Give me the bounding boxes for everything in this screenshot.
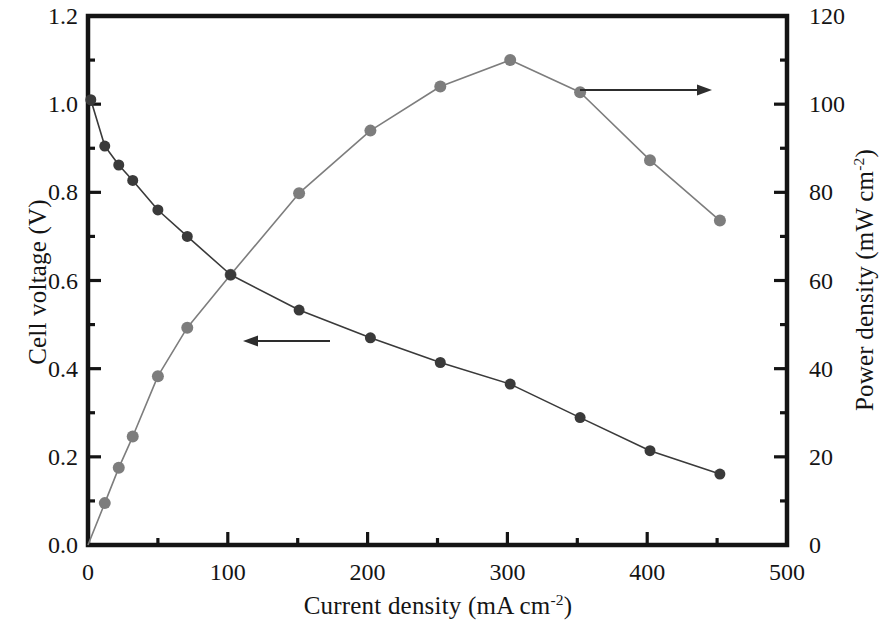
bottom-axis-title-text: Current density (mA cm [304, 592, 551, 619]
right-axis-title-tail: ) [851, 149, 878, 158]
bottom-axis-title-exponent: -2 [550, 591, 563, 608]
plot-frame-rect [88, 16, 787, 545]
cell-voltage-marker [505, 379, 516, 390]
left-axis-tick-label: 0.6 [10, 267, 78, 294]
right-axis-tick-label: 40 [809, 355, 833, 382]
right-axis-arrow-head [697, 85, 712, 96]
cell-voltage-marker [113, 160, 124, 171]
cell-voltage-marker [225, 269, 236, 280]
right-axis-title-text: Power density (mW cm [851, 171, 878, 411]
left-axis-arrow-head [243, 336, 258, 347]
power-density-marker [574, 86, 586, 98]
right-axis-tick-label: 100 [809, 91, 845, 118]
cell-voltage-marker [127, 175, 138, 186]
power-density-marker [113, 462, 125, 474]
power-density-marker [181, 322, 193, 334]
plot-frame [88, 16, 787, 545]
power-density-marker [504, 54, 516, 66]
cell-voltage-marker [85, 94, 96, 105]
right-axis-tick-label: 60 [809, 267, 833, 294]
power-density-marker [714, 215, 726, 227]
bottom-axis-tick-label: 500 [769, 559, 805, 586]
cell-voltage-marker [645, 445, 656, 456]
axis-ticks [88, 16, 787, 545]
right-axis-title-exponent: -2 [850, 157, 867, 170]
cell-voltage-marker [182, 231, 193, 242]
left-axis-tick-label: 0.2 [10, 443, 78, 470]
power-density-line [88, 60, 720, 545]
cell-voltage-marker [435, 357, 446, 368]
series-power-density [88, 54, 726, 545]
bottom-axis-tick-label: 200 [350, 559, 386, 586]
power-density-marker [364, 125, 376, 137]
right-axis-tick-label: 0 [809, 532, 821, 559]
cell-voltage-marker [714, 469, 725, 480]
figure-container: Cell voltage (V) Power density (mW cm-2)… [0, 0, 879, 633]
power-density-marker [152, 370, 164, 382]
left-axis-tick-label: 0.4 [10, 355, 78, 382]
cell-voltage-marker [99, 141, 110, 152]
bottom-axis-tick-label: 400 [629, 559, 665, 586]
bottom-axis-tick-label: 0 [82, 559, 94, 586]
cell-voltage-marker [152, 204, 163, 215]
series-cell-voltage [85, 94, 725, 479]
cell-voltage-marker [575, 412, 586, 423]
left-axis-tick-label: 1.2 [10, 3, 78, 30]
right-axis-tick-label: 20 [809, 443, 833, 470]
bottom-axis-title: Current density (mA cm-2) [88, 592, 788, 620]
left-axis-tick-label: 0.0 [10, 532, 78, 559]
power-density-marker [434, 81, 446, 93]
left-axis-tick-label: 0.8 [10, 179, 78, 206]
plot-canvas [0, 0, 879, 633]
cell-voltage-marker [294, 305, 305, 316]
power-density-marker [99, 497, 111, 509]
bottom-axis-tick-label: 300 [489, 559, 525, 586]
right-axis-tick-label: 80 [809, 179, 833, 206]
power-density-marker [127, 431, 139, 443]
power-density-marker [293, 187, 305, 199]
bottom-axis-tick-label: 100 [210, 559, 246, 586]
power-density-marker [644, 154, 656, 166]
right-axis-tick-label: 120 [809, 3, 845, 30]
axis-arrow-annotations [243, 85, 712, 347]
right-axis-title: Power density (mW cm-2) [851, 115, 879, 445]
left-axis-tick-label: 1.0 [10, 91, 78, 118]
cell-voltage-line [91, 100, 720, 474]
cell-voltage-marker [365, 332, 376, 343]
bottom-axis-title-tail: ) [564, 592, 573, 619]
